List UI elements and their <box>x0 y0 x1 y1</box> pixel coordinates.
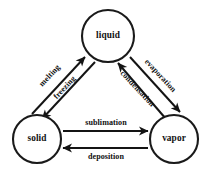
vapor-label: vapor <box>162 133 186 143</box>
phase-diagram: melting freezing evaporation condensatio… <box>0 0 209 172</box>
solid-label: solid <box>27 133 47 143</box>
edge-melting: melting <box>32 57 85 114</box>
edge-deposition: deposition <box>63 148 148 161</box>
sublimation-label: sublimation <box>85 118 127 127</box>
condensation-label: condensation <box>118 69 156 109</box>
phase-diagram-canvas: melting freezing evaporation condensatio… <box>0 0 209 172</box>
node-solid[interactable]: solid <box>13 115 61 163</box>
node-liquid[interactable]: liquid <box>82 10 134 62</box>
liquid-label: liquid <box>96 30 121 40</box>
node-vapor[interactable]: vapor <box>150 115 198 163</box>
deposition-label: deposition <box>88 152 124 161</box>
edge-sublimation: sublimation <box>63 118 148 131</box>
